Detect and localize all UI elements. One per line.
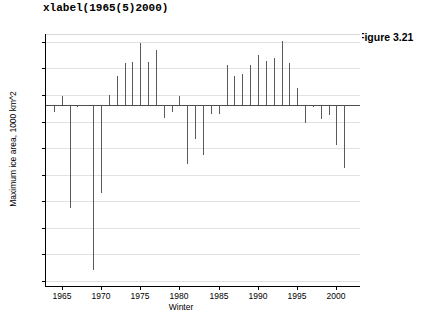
spike-bar (148, 62, 149, 105)
spike-bar (258, 55, 259, 105)
spike-bar (274, 58, 275, 105)
spike-bar (329, 105, 330, 115)
spike-bar (125, 63, 126, 105)
spike-bar (140, 43, 141, 105)
spike-bar (70, 105, 71, 208)
spike-bar (109, 95, 110, 105)
spike-bar (117, 76, 118, 105)
spike-bar (85, 105, 86, 106)
chart-graph: 406080100120140160180200220 196519701975… (0, 28, 362, 300)
spike-bar (313, 105, 314, 107)
spike-bar (187, 105, 188, 164)
spike-bar (234, 76, 235, 105)
spike-bar (132, 62, 133, 105)
spike-bar (227, 65, 228, 105)
spike-bar (250, 65, 251, 105)
spike-bar (266, 61, 267, 105)
spike-bar (77, 105, 78, 107)
spike-bar (211, 105, 212, 114)
spike-bar (164, 105, 165, 118)
spike-bar (289, 63, 290, 105)
spike-bar (305, 105, 306, 123)
spike-bar (344, 105, 345, 168)
spike-bar (54, 105, 55, 112)
x-axis-title: Winter (0, 302, 362, 312)
spike-bar (321, 105, 322, 119)
spike-bar (336, 105, 337, 145)
spike-bar (195, 105, 196, 139)
spike-bar (179, 96, 180, 105)
spike-bar (172, 105, 173, 112)
spike-bar (62, 96, 63, 105)
plot-area (0, 28, 362, 300)
spike-bar (219, 105, 220, 114)
spike-bar (93, 105, 94, 270)
y-axis-title: Maximum ice area, 1000 km^2 (8, 74, 18, 224)
spike-bar (242, 74, 243, 105)
code-label: xlabel(1965(5)2000) (43, 2, 168, 14)
figure-caption: Figure 3.21 (358, 31, 413, 43)
spike-bar (297, 88, 298, 105)
spike-bar (156, 50, 157, 105)
spike-bar (101, 105, 102, 193)
spike-bar (282, 41, 283, 105)
spike-bar (203, 105, 204, 155)
